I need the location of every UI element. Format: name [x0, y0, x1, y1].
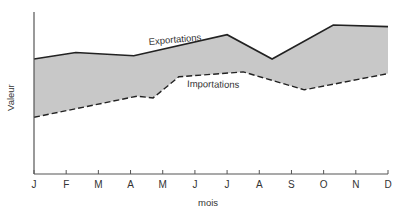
- x-tick-label: S: [288, 179, 295, 190]
- x-axis-tick-labels: JFMAMJJASOND: [32, 179, 392, 190]
- x-tick-label: N: [352, 179, 359, 190]
- x-tick-label: J: [192, 179, 197, 190]
- x-tick-label: D: [384, 179, 391, 190]
- x-tick-label: A: [256, 179, 263, 190]
- importations-label: Importations: [187, 78, 240, 90]
- x-tick-label: O: [320, 179, 328, 190]
- x-tick-label: F: [63, 179, 69, 190]
- x-tick-label: M: [159, 179, 167, 190]
- x-tick-label: M: [94, 179, 102, 190]
- x-axis-label: mois: [198, 197, 218, 208]
- y-axis-label: Valeur: [5, 84, 16, 111]
- x-tick-label: J: [225, 179, 230, 190]
- area-chart: JFMAMJJASOND Exportations Importations V…: [0, 0, 409, 218]
- x-tick-label: A: [127, 179, 134, 190]
- x-tick-label: J: [32, 179, 37, 190]
